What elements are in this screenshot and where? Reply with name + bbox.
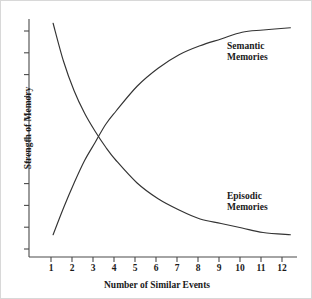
x-tick-label: 2 (62, 264, 82, 274)
x-axis-title: Number of Similar Events (1, 280, 312, 290)
x-tick-label: 11 (251, 264, 271, 274)
semantic-memories-label: Semantic Memories (227, 41, 268, 63)
x-tick-label: 6 (146, 264, 166, 274)
semantic-label-line-1: Semantic (227, 41, 268, 52)
x-tick-label: 3 (83, 264, 103, 274)
episodic-label-line-1: Episodic (227, 191, 268, 202)
y-axis-title: Strength of Memory (23, 53, 33, 203)
x-tick-label: 12 (272, 264, 292, 274)
x-tick-label: 10 (230, 264, 250, 274)
x-tick-label: 5 (125, 264, 145, 274)
x-axis-ticks (51, 257, 282, 262)
x-tick-label: 9 (209, 264, 229, 274)
x-tick-label: 4 (104, 264, 124, 274)
semantic-label-line-2: Memories (227, 52, 268, 63)
memory-strength-chart: 123456789101112 Strength of Memory Numbe… (0, 0, 312, 299)
episodic-label-line-2: Memories (227, 202, 268, 213)
episodic-memories-label: Episodic Memories (227, 191, 268, 213)
x-tick-label: 8 (188, 264, 208, 274)
x-tick-label: 1 (41, 264, 61, 274)
x-tick-label: 7 (167, 264, 187, 274)
